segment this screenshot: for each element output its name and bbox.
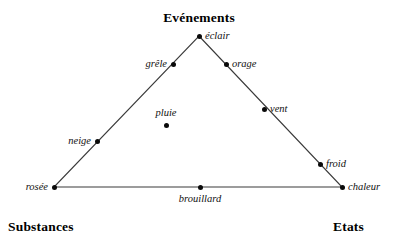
- node-dot-chaleur: [340, 185, 345, 190]
- node-dot-froid: [318, 162, 323, 167]
- node-dot-eclair: [197, 34, 202, 39]
- node-dot-vent: [262, 107, 267, 112]
- node-label-chaleur: chaleur: [348, 182, 380, 193]
- triangle-shape: [54, 36, 342, 187]
- heading-substances: Substances: [8, 220, 74, 234]
- node-label-orage: orage: [232, 59, 257, 70]
- node-label-eclair: éclair: [205, 31, 230, 42]
- node-dot-neige: [95, 139, 100, 144]
- node-label-neige: neige: [68, 136, 91, 147]
- meteorological-triangle-diagram: Evénements Substances Etats éclairgrêleo…: [0, 0, 398, 248]
- node-label-pluie: pluie: [156, 108, 177, 119]
- node-dot-grele: [171, 62, 176, 67]
- node-dot-orage: [224, 62, 229, 67]
- node-label-vent: vent: [270, 104, 288, 115]
- node-dot-brouillard: [198, 185, 203, 190]
- node-dot-pluie: [164, 123, 169, 128]
- heading-evenements: Evénements: [163, 11, 235, 25]
- node-label-grele: grêle: [145, 59, 167, 70]
- node-label-froid: froid: [326, 159, 346, 170]
- heading-etats: Etats: [333, 220, 364, 234]
- node-label-brouillard: brouillard: [179, 194, 221, 205]
- node-dot-rosee: [52, 185, 57, 190]
- node-label-rosee: rosée: [26, 182, 48, 193]
